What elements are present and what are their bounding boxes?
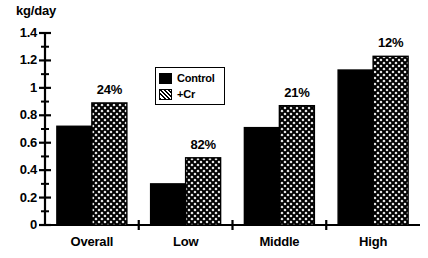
y-axis-tick-label: 0.8 — [3, 107, 37, 122]
bar-overall-pluscr — [92, 103, 127, 225]
bar-overall-control — [57, 126, 92, 225]
y-axis-tick-label: 0 — [3, 217, 37, 232]
y-axis-tick-label: 1 — [3, 80, 37, 95]
y-axis-tick-label: 0.6 — [3, 135, 37, 150]
bar-high-control — [338, 70, 373, 225]
percent-annotation-overall: 24% — [79, 82, 139, 97]
bar-high-pluscr — [373, 56, 408, 225]
y-axis-tick-label: 0.4 — [3, 162, 37, 177]
bar-chart: kg/day 00.20.40.60.811.21.4 OverallLowMi… — [0, 0, 428, 258]
legend-item-cr: +Cr — [159, 86, 221, 102]
y-axis-tick-label: 0.2 — [3, 190, 37, 205]
x-axis-label-middle: Middle — [229, 234, 329, 249]
legend-label-control: Control — [177, 72, 215, 84]
x-axis-label-low: Low — [136, 234, 236, 249]
bar-low-pluscr — [186, 158, 221, 225]
percent-annotation-low: 82% — [173, 137, 233, 152]
legend-item-control: Control — [159, 70, 221, 86]
percent-annotation-middle: 21% — [267, 85, 327, 100]
bar-middle-pluscr — [279, 106, 314, 225]
percent-annotation-high: 12% — [361, 35, 421, 50]
bar-low-control — [151, 184, 186, 225]
x-axis-label-overall: Overall — [42, 234, 142, 249]
y-axis-tick-label: 1.2 — [3, 52, 37, 67]
bar-middle-control — [244, 128, 279, 225]
x-axis-label-high: High — [323, 234, 423, 249]
legend: Control +Cr — [155, 67, 225, 105]
y-axis-tick-label: 1.4 — [3, 25, 37, 40]
legend-swatch-control-icon — [159, 73, 172, 84]
legend-label-cr: +Cr — [177, 88, 195, 100]
legend-swatch-cr-icon — [159, 89, 172, 100]
